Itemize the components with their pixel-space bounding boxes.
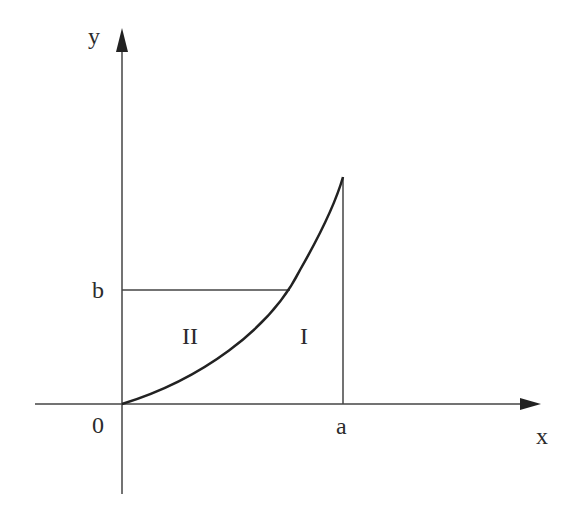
x-axis-arrow-icon: [520, 398, 541, 410]
y-axis-label: y: [88, 23, 100, 49]
y-mark-label: b: [92, 277, 104, 303]
y-axis-arrow-icon: [116, 28, 128, 52]
diagram-canvas: y x 0 a b II I: [0, 0, 572, 516]
x-axis-label: x: [536, 423, 548, 449]
region-ii-label: II: [182, 323, 198, 349]
region-i-label: I: [300, 323, 308, 349]
x-mark-label: a: [336, 413, 347, 439]
x-axis: [35, 398, 541, 410]
y-axis: [116, 28, 128, 494]
origin-label: 0: [92, 412, 104, 438]
